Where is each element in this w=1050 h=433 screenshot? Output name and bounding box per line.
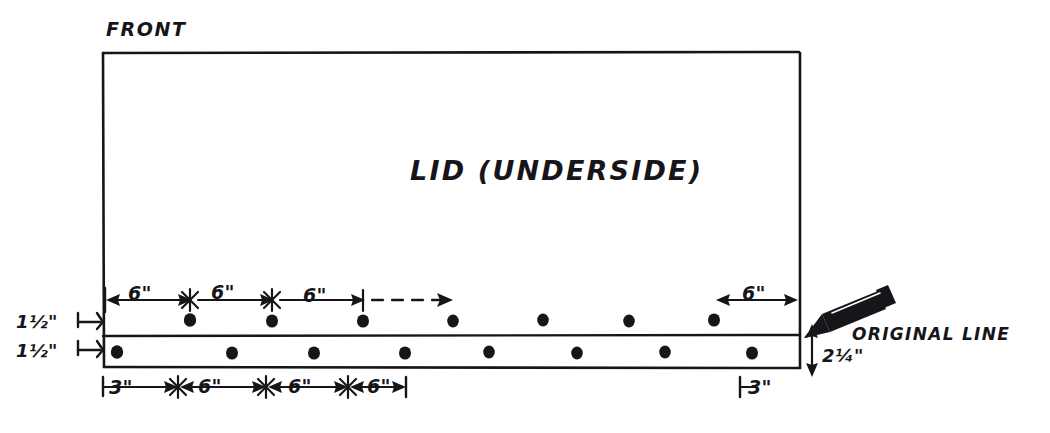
upper-dim-2: 6" bbox=[211, 281, 235, 303]
lower-dim-1: 6" bbox=[198, 375, 222, 397]
lower-dim-2: 6" bbox=[288, 375, 312, 397]
lower-dimension-chain: 3" 6" 6" 6" 3" bbox=[103, 375, 772, 398]
band-divider-lines bbox=[103, 335, 800, 336]
upper-dim-3: 6" bbox=[303, 284, 327, 306]
hole-dot bbox=[184, 313, 196, 327]
upper-hole-dots bbox=[184, 313, 720, 327]
diagram-canvas: FRONT LID (UNDERSIDE) bbox=[0, 0, 1050, 433]
hole-dot bbox=[357, 314, 369, 327]
lower-dim-left-margin: 3" bbox=[109, 376, 133, 398]
left-vertical-dimensions: 1½" 1½" bbox=[16, 311, 103, 361]
hole-dot bbox=[447, 315, 459, 328]
front-label: FRONT bbox=[106, 18, 187, 40]
hole-dot bbox=[483, 346, 495, 359]
lower-hole-dots bbox=[111, 345, 758, 359]
upper-dim-1: 6" bbox=[128, 282, 152, 304]
lower-dim-right-margin: 3" bbox=[748, 376, 772, 398]
upper-band-dimension: 1½" bbox=[16, 311, 58, 332]
hole-dot bbox=[537, 314, 549, 327]
hole-dot bbox=[659, 346, 671, 359]
hole-dot bbox=[571, 347, 583, 360]
page-title: LID (UNDERSIDE) bbox=[410, 155, 703, 186]
hole-dot bbox=[708, 313, 720, 326]
original-line-label: ORIGINAL LINE bbox=[852, 324, 1010, 344]
hole-dot bbox=[746, 346, 758, 359]
lid-layout-sketch: FRONT LID (UNDERSIDE) bbox=[0, 0, 1050, 433]
upper-dimension-chain: 6" 6" 6" 6" bbox=[105, 281, 798, 312]
hole-dot bbox=[308, 346, 320, 359]
hole-dot bbox=[226, 346, 238, 359]
lower-band-dimension: 1½" bbox=[16, 340, 58, 361]
hole-dot bbox=[266, 314, 278, 327]
upper-dim-4: 6" bbox=[742, 282, 766, 304]
lower-dim-3: 6" bbox=[367, 375, 391, 397]
hole-dot bbox=[623, 315, 635, 328]
right-offset-label: 2¼" bbox=[822, 345, 864, 366]
hole-dot bbox=[399, 346, 411, 359]
hole-dot bbox=[111, 345, 123, 359]
